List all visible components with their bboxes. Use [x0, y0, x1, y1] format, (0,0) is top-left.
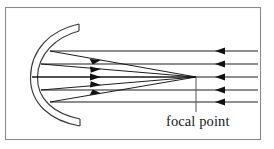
incoming-ray-1 — [50, 47, 258, 54]
mirror-inner-arc — [37, 31, 80, 119]
reflected-rays — [32, 51, 196, 102]
incoming-ray-1-arrow-outer — [215, 47, 225, 54]
reflected-ray-3-arrow — [90, 73, 101, 80]
reflected-ray-5-line — [50, 77, 196, 102]
reflected-ray-4 — [41, 77, 196, 90]
focal-point-label: focal point — [166, 113, 230, 129]
incoming-ray-2-arrow-outer — [215, 60, 225, 67]
reflected-ray-4-line — [41, 77, 196, 90]
incoming-ray-4-arrow-outer — [215, 86, 225, 93]
incoming-ray-3-arrow-outer — [215, 73, 225, 80]
reflected-ray-2-arrow — [90, 67, 101, 73]
concave-mirror — [30, 24, 80, 126]
figure-root: focal point — [0, 0, 274, 149]
incoming-ray-5 — [50, 98, 258, 105]
incoming-ray-5-arrow-outer — [215, 98, 225, 105]
incoming-rays — [32, 47, 258, 105]
mirror-ray-diagram: focal point — [0, 0, 274, 149]
reflected-ray-2-line — [41, 64, 196, 77]
reflected-ray-2 — [41, 64, 196, 77]
reflected-ray-4-arrow — [90, 81, 101, 87]
reflected-ray-5 — [50, 77, 196, 102]
